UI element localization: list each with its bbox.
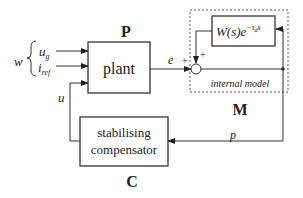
iref-label: iref	[38, 60, 52, 77]
p-label: p	[229, 128, 236, 142]
compensator-title: C	[126, 173, 138, 190]
internal-model-caption: internal model	[211, 78, 270, 89]
block-diagram: w ug iref u P plant e + internal model W…	[0, 0, 303, 198]
brace-icon	[27, 41, 36, 76]
w-label: w	[14, 54, 23, 69]
compensator-line1: stabilising	[97, 125, 151, 140]
ug-label: ug	[39, 44, 50, 61]
summing-junction	[191, 64, 201, 74]
e-plus-sign: +	[182, 55, 188, 66]
plant-title: P	[121, 23, 131, 40]
internal-model-title: M	[232, 101, 247, 118]
e-label: e	[168, 53, 174, 67]
feedback-plus-sign: +	[200, 49, 206, 60]
compensator-line2: compensator	[91, 142, 158, 157]
plant-label: plant	[103, 60, 136, 78]
u-label: u	[58, 90, 65, 105]
w-input-arrow	[276, 29, 283, 69]
